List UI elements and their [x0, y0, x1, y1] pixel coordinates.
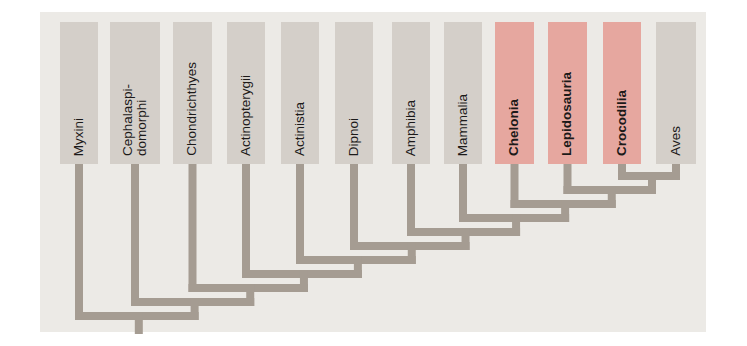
taxon-box-amphibia: Amphibia [392, 22, 430, 164]
taxon-box-chelonia: Chelonia [495, 22, 534, 164]
taxon-label: Chondrichthyes [185, 62, 199, 164]
taxon-box-cephalaspidomorphi: Cephalaspi- domorphi [110, 22, 160, 164]
taxon-label: Chelonia [507, 99, 521, 164]
taxon-box-actinopterygii: Actinopterygii [227, 22, 265, 164]
taxon-label: Myxini [72, 118, 86, 164]
taxon-box-actinistia: Actinistia [281, 22, 319, 164]
taxon-label: Amphibia [404, 100, 418, 164]
taxon-box-dipnoi: Dipnoi [335, 22, 373, 164]
taxon-label: Dipnoi [347, 118, 361, 164]
taxon-label: Actinopterygii [239, 75, 253, 164]
taxon-label: Cephalaspi- domorphi [121, 84, 149, 164]
taxon-box-lepidosauria: Lepidosauria [548, 22, 587, 164]
taxon-box-aves: Aves [656, 22, 696, 164]
taxon-label: Crocodilia [615, 90, 629, 164]
taxon-box-mammalia: Mammalia [444, 22, 482, 164]
taxon-box-chondrichthyes: Chondrichthyes [173, 22, 212, 164]
taxon-label: Lepidosauria [560, 72, 574, 164]
taxon-label: Aves [669, 126, 683, 164]
taxon-box-crocodilia: Crocodilia [603, 22, 641, 164]
taxon-label: Mammalia [456, 94, 470, 164]
taxon-label: Actinistia [293, 102, 307, 164]
taxon-box-myxini: Myxini [60, 22, 98, 164]
